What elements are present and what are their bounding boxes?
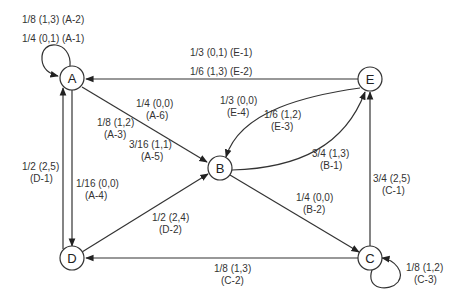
svg-text:C: C <box>365 251 374 266</box>
label-d-1-l2: (D-1) <box>30 173 53 184</box>
label-a-6-l2: (A-6) <box>146 110 168 121</box>
label-a-5-l1: 3/16 (1,1) <box>129 139 172 150</box>
label-a-4-l1: 1/16 (0,0) <box>76 178 119 189</box>
label-d-1-l1: 1/2 (2,5) <box>22 161 59 172</box>
label-e-3-l2: (E-3) <box>271 121 293 132</box>
svg-text:E: E <box>366 72 375 87</box>
label-e-3-l1: 1/6 (1,2) <box>264 109 301 120</box>
node-a: A <box>60 66 84 90</box>
label-e-4-l2: (E-4) <box>227 107 249 118</box>
label-b-1-l2: (B-1) <box>320 160 342 171</box>
label-c-3-l1: 1/8 (1,2) <box>406 262 443 273</box>
label-e-2: 1/6 (1,3) (E-2) <box>190 66 252 77</box>
label-a-2: 1/8 (1,3) (A-2) <box>22 14 84 25</box>
label-e-1: 1/3 (0,1) (E-1) <box>190 47 252 58</box>
label-a-4-l2: (A-4) <box>85 190 107 201</box>
edge-b-c <box>230 175 359 252</box>
svg-text:D: D <box>67 251 76 266</box>
svg-text:B: B <box>216 161 225 176</box>
label-a-1: 1/4 (0,1) (A-1) <box>22 33 84 44</box>
label-a-3-l2: (A-3) <box>104 129 126 140</box>
node-b: B <box>208 156 232 180</box>
label-c-1-l1: 3/4 (2,5) <box>373 173 410 184</box>
label-c-2-l1: 1/8 (1,3) <box>214 263 251 274</box>
label-d-2-l2: (D-2) <box>159 224 182 235</box>
label-a-6-l1: 1/4 (0,0) <box>136 98 173 109</box>
label-b-1-l1: 3/4 (1,3) <box>312 148 349 159</box>
state-diagram: A B C D E 1/8 (1,3) (A-2) 1/4 (0,1) (A-1… <box>0 0 460 306</box>
label-b-2-l2: (B-2) <box>303 204 325 215</box>
label-c-1-l2: (C-1) <box>382 185 405 196</box>
label-e-4-l1: 1/3 (0,0) <box>220 95 257 106</box>
label-a-3-l1: 1/8 (1,2) <box>97 117 134 128</box>
svg-text:A: A <box>68 71 77 86</box>
node-d: D <box>60 246 84 270</box>
label-c-2-l2: (C-2) <box>221 275 244 286</box>
label-b-2-l1: 1/4 (0,0) <box>296 192 333 203</box>
node-e: E <box>358 67 382 91</box>
label-a-5-l2: (A-5) <box>141 151 163 162</box>
label-c-3-l2: (C-3) <box>414 274 437 285</box>
node-c: C <box>358 246 382 270</box>
label-d-2-l1: 1/2 (2,4) <box>152 212 189 223</box>
